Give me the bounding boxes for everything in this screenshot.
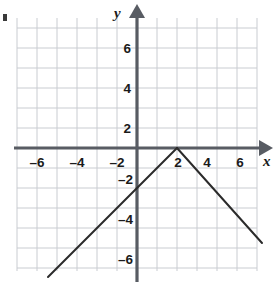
x-tick-label-neg2: –2 bbox=[109, 155, 124, 170]
x-tick-label-6: 6 bbox=[236, 155, 244, 170]
y-tick-label-neg2: –2 bbox=[118, 172, 133, 187]
x-axis-label: x bbox=[262, 153, 271, 169]
scan-artifact bbox=[3, 14, 7, 21]
y-tick-label-neg4: –4 bbox=[118, 212, 134, 227]
y-tick-label-4: 4 bbox=[123, 81, 131, 96]
y-tick-label-neg6: –6 bbox=[118, 252, 134, 267]
graph-right-branch bbox=[177, 148, 262, 243]
y-axis-label: y bbox=[112, 5, 121, 21]
x-tick-label-neg4: –4 bbox=[69, 155, 85, 170]
coordinate-plane: x y –6 –4 –2 2 4 6 6 4 2 –2 –4 –6 bbox=[0, 0, 280, 297]
x-tick-label-neg6: –6 bbox=[29, 155, 45, 170]
y-tick-label-6: 6 bbox=[123, 41, 131, 56]
graph-screenshot: x y –6 –4 –2 2 4 6 6 4 2 –2 –4 –6 bbox=[0, 0, 280, 297]
axis-lines bbox=[14, 10, 262, 282]
x-tick-label-4: 4 bbox=[203, 155, 211, 170]
y-axis-arrowhead bbox=[129, 4, 145, 18]
x-tick-label-2: 2 bbox=[174, 155, 182, 170]
y-tick-label-2: 2 bbox=[123, 121, 131, 136]
